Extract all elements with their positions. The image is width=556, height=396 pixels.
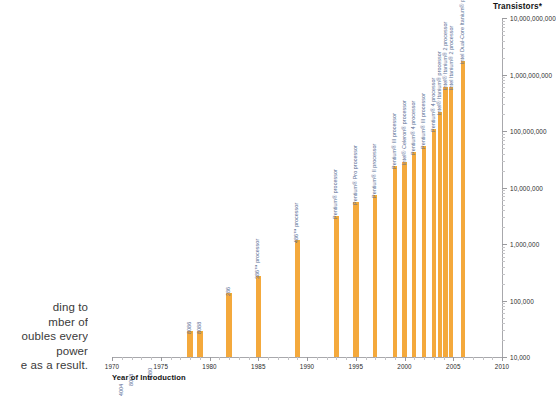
bar — [295, 240, 301, 358]
bar — [187, 331, 193, 357]
x-axis-tick — [258, 357, 259, 361]
x-axis-minor-tick — [249, 357, 250, 360]
x-axis-minor-tick — [336, 357, 337, 360]
x-axis-minor-tick — [239, 357, 240, 360]
chart-title: Transistors* — [493, 2, 542, 11]
bar — [197, 331, 203, 357]
y-axis-minor-tick — [502, 80, 505, 81]
y-axis-minor-tick — [502, 154, 505, 155]
y-axis-minor-tick — [502, 134, 505, 135]
bar-label: Pentium® processor — [332, 169, 338, 219]
bar-label: 4004 — [118, 384, 124, 396]
y-axis-minor-tick — [502, 58, 505, 59]
y-axis-minor-tick — [502, 161, 505, 162]
x-axis-minor-tick — [288, 357, 289, 360]
bar-label: Pentium® 4 processor — [410, 101, 416, 155]
y-axis-minor-tick — [502, 35, 505, 36]
x-axis-minor-tick — [151, 357, 152, 360]
x-axis-tick-label: 1995 — [349, 363, 363, 370]
x-axis-minor-tick — [424, 357, 425, 360]
x-axis-minor-tick — [492, 357, 493, 360]
x-axis-tick — [453, 357, 454, 361]
x-axis-tick-label: 1970 — [105, 363, 119, 370]
y-axis-minor-tick — [502, 41, 505, 42]
y-axis-tick — [502, 75, 507, 76]
y-axis-minor-tick — [502, 190, 505, 191]
y-axis-minor-tick — [502, 250, 505, 251]
bar-label: Pentium® 4 processor — [430, 77, 436, 131]
y-axis-minor-tick — [502, 284, 505, 285]
x-axis-minor-tick — [375, 357, 376, 360]
bar-label: Pentium® II processor — [371, 143, 377, 197]
body-copy-line: mber of — [0, 315, 88, 330]
y-axis-minor-tick — [502, 200, 505, 201]
bar — [226, 293, 232, 357]
x-axis-title: Year of Introduction — [112, 373, 186, 382]
y-axis-tick-label: 100,000,000 — [510, 128, 547, 135]
y-axis-minor-tick — [502, 267, 505, 268]
x-axis-minor-tick — [444, 357, 445, 360]
body-copy-line: power — [0, 344, 88, 359]
bar-label: 486™ processor — [293, 202, 299, 242]
body-copy-line: ding to — [0, 300, 88, 315]
bar-label: Intel® Celeron® processor — [401, 100, 407, 165]
y-axis-minor-tick — [502, 303, 505, 304]
bar-label: 386™ processor — [254, 238, 260, 278]
bar — [438, 112, 442, 357]
y-axis-minor-tick — [502, 253, 505, 254]
y-axis-minor-tick — [502, 257, 505, 258]
body-copy: ding to mber of oubles every power e as … — [0, 300, 88, 373]
y-axis-minor-tick — [502, 171, 505, 172]
bar-label: Intel Itanium® 2 processor — [448, 26, 454, 90]
y-axis-minor-tick — [502, 83, 505, 84]
chart-plot-area: 40048008808080868088286386™ processor486… — [112, 18, 502, 358]
bar-label: Pentium® III processor — [420, 93, 426, 149]
bar — [422, 146, 426, 357]
x-axis-tick-label: 2010 — [495, 363, 509, 370]
y-axis-minor-tick — [502, 274, 505, 275]
y-axis-minor-tick — [502, 77, 505, 78]
y-axis-minor-tick — [502, 27, 505, 28]
x-axis-minor-tick — [463, 357, 464, 360]
y-axis-tick — [502, 188, 507, 189]
x-axis-tick — [112, 357, 113, 361]
y-axis-tick — [502, 18, 507, 19]
y-axis-minor-tick — [502, 114, 505, 115]
x-axis-tick — [210, 357, 211, 361]
y-axis-tick-label: 10,000 — [510, 354, 530, 361]
x-axis-minor-tick — [346, 357, 347, 360]
x-axis-minor-tick — [268, 357, 269, 360]
x-axis-tick — [161, 357, 162, 361]
y-axis-minor-tick — [502, 196, 505, 197]
y-axis-minor-tick — [502, 92, 505, 93]
y-axis-minor-tick — [502, 313, 505, 314]
x-axis-minor-tick — [414, 357, 415, 360]
y-axis-minor-tick — [502, 318, 505, 319]
x-axis-minor-tick — [132, 357, 133, 360]
y-axis-tick — [502, 244, 507, 245]
y-axis-minor-tick — [502, 48, 505, 49]
x-axis-minor-tick — [200, 357, 201, 360]
bar-label: 8088 — [196, 322, 202, 334]
bar — [461, 61, 465, 357]
x-axis-tick-label: 1990 — [300, 363, 314, 370]
y-axis-minor-tick — [502, 137, 505, 138]
x-axis-minor-tick — [473, 357, 474, 360]
bar — [393, 166, 397, 357]
y-axis-minor-tick — [502, 97, 505, 98]
y-axis-minor-tick — [502, 24, 505, 25]
x-axis-minor-tick — [385, 357, 386, 360]
y-axis-minor-tick — [502, 104, 505, 105]
x-axis-minor-tick — [171, 357, 172, 360]
y-axis-tick-label: 10,000,000,000 — [510, 15, 556, 22]
x-axis-minor-tick — [434, 357, 435, 360]
x-axis-minor-tick — [483, 357, 484, 360]
x-axis-tick — [502, 357, 503, 361]
y-axis-minor-tick — [502, 306, 505, 307]
y-axis-minor-tick — [502, 247, 505, 248]
x-axis-tick-label: 1985 — [251, 363, 265, 370]
bar-label: 8086 — [186, 322, 192, 334]
bar — [353, 202, 359, 357]
y-axis-minor-tick — [502, 193, 505, 194]
bar — [373, 195, 377, 357]
